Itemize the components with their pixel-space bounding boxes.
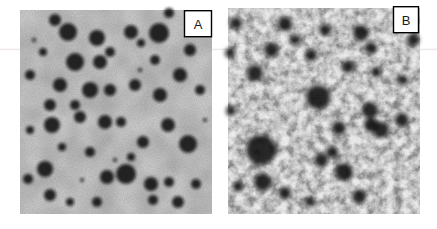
droplet — [173, 68, 187, 82]
droplet — [172, 196, 184, 208]
droplet — [305, 49, 317, 61]
panel-b-label: B — [394, 7, 419, 33]
droplet — [98, 115, 112, 129]
droplet — [127, 153, 135, 161]
droplet — [191, 179, 201, 189]
droplet — [105, 47, 115, 57]
droplet — [89, 30, 105, 46]
droplet — [66, 198, 74, 206]
droplet — [150, 55, 160, 65]
droplet — [246, 135, 276, 165]
droplet — [365, 42, 377, 54]
droplet — [398, 75, 408, 85]
droplet — [129, 79, 141, 91]
droplet — [230, 17, 242, 29]
droplet — [93, 55, 107, 69]
droplet — [80, 178, 84, 182]
droplet — [70, 100, 80, 110]
panel-a-label-text: A — [194, 17, 203, 32]
droplet — [74, 111, 86, 123]
panel-a-label: A — [185, 11, 212, 37]
droplet — [278, 17, 292, 31]
droplet — [290, 35, 300, 45]
droplet — [226, 106, 236, 116]
droplet — [161, 118, 175, 132]
droplet — [184, 44, 196, 56]
droplet — [49, 14, 61, 26]
droplet — [306, 85, 330, 109]
droplet — [116, 164, 136, 184]
panel-b-image: B — [225, 7, 420, 214]
droplet — [342, 61, 354, 73]
droplet — [113, 158, 117, 162]
droplet — [44, 99, 56, 111]
droplet — [116, 117, 126, 127]
droplet — [362, 102, 378, 118]
droplet — [233, 182, 243, 192]
droplet — [314, 153, 328, 167]
droplet — [32, 38, 36, 42]
droplet — [364, 118, 378, 132]
droplet — [335, 163, 353, 181]
droplet — [37, 161, 53, 177]
panel-a-blotch-texture — [20, 10, 212, 214]
droplet — [85, 147, 95, 157]
droplet — [58, 143, 66, 151]
droplet — [23, 174, 33, 184]
droplet — [326, 146, 338, 158]
droplet — [395, 113, 409, 127]
droplet — [153, 88, 167, 102]
droplet — [247, 65, 263, 81]
figure-canvas: A B — [0, 0, 437, 229]
droplet — [138, 68, 142, 72]
panel-a-image: A — [20, 8, 212, 214]
droplet — [66, 53, 84, 71]
droplet — [319, 24, 331, 36]
droplet — [53, 78, 67, 92]
droplet — [164, 177, 174, 187]
droplet — [25, 70, 35, 80]
droplet — [353, 25, 369, 41]
droplet — [164, 8, 174, 18]
droplet — [26, 126, 34, 134]
droplet — [305, 197, 315, 207]
droplet — [92, 197, 102, 207]
droplet — [44, 189, 56, 201]
droplet — [179, 135, 197, 153]
droplet — [332, 121, 346, 135]
droplet — [44, 117, 60, 133]
droplet — [195, 85, 205, 95]
droplet — [203, 118, 207, 122]
panel-b-label-text: B — [402, 13, 411, 28]
droplet — [407, 34, 419, 46]
droplet — [149, 23, 169, 43]
droplet — [225, 48, 235, 58]
micrograph-figure: A B — [0, 0, 437, 229]
droplet — [264, 43, 278, 57]
droplet — [148, 195, 158, 205]
droplet — [59, 23, 77, 41]
droplet — [124, 25, 138, 39]
droplet — [104, 84, 116, 96]
droplet — [352, 190, 366, 204]
droplet — [137, 39, 145, 47]
droplet — [137, 136, 149, 148]
droplet — [144, 177, 158, 191]
droplet — [254, 173, 272, 191]
droplet — [82, 82, 98, 98]
droplet — [39, 48, 47, 56]
droplet — [371, 67, 381, 77]
droplet — [279, 187, 291, 199]
droplet — [100, 170, 114, 184]
